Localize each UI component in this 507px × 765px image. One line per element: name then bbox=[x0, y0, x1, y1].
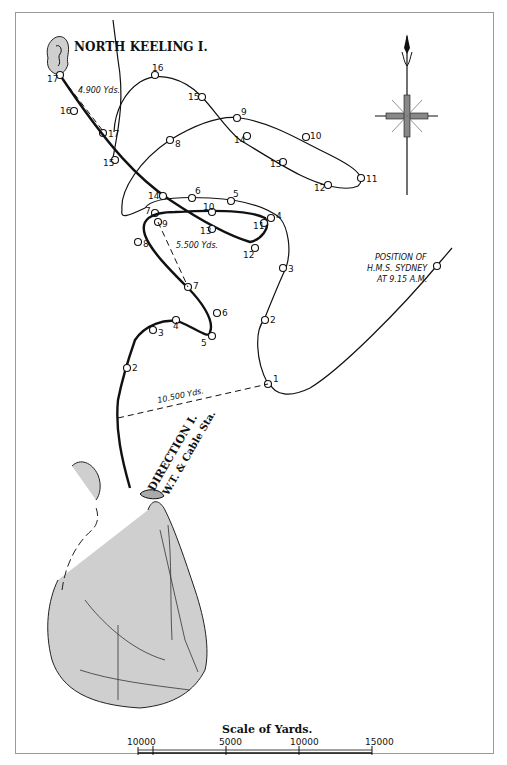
svg-text:13: 13 bbox=[200, 226, 211, 236]
sydney-position-label-3: AT 9.15 A.M. bbox=[376, 275, 427, 284]
svg-text:15: 15 bbox=[188, 92, 199, 102]
north-keeling-island bbox=[47, 37, 68, 75]
svg-text:14: 14 bbox=[234, 135, 246, 145]
sydney-start-marker bbox=[434, 263, 441, 270]
sydney-position-label: POSITION OF bbox=[375, 253, 427, 262]
distance-label-north: 4.900 Yds. bbox=[78, 86, 120, 95]
svg-text:11: 11 bbox=[253, 221, 264, 231]
distance-label-middle: 5.500 Yds. bbox=[176, 241, 218, 250]
svg-text:5: 5 bbox=[201, 338, 207, 348]
compass-rose-icon bbox=[375, 34, 438, 195]
svg-text:9: 9 bbox=[162, 219, 168, 229]
svg-text:1: 1 bbox=[273, 374, 279, 384]
scale-bar bbox=[138, 746, 372, 755]
direction-island-atoll bbox=[48, 462, 207, 708]
scale-title: Scale of Yards. bbox=[222, 723, 312, 736]
svg-text:17: 17 bbox=[47, 74, 58, 84]
svg-text:7: 7 bbox=[193, 281, 199, 291]
battle-map: NORTH KEELING I. POSITION OF H.M.S. SYDN… bbox=[0, 0, 507, 765]
scale-tick-1000: 1000 bbox=[127, 737, 150, 747]
svg-text:13: 13 bbox=[270, 159, 281, 169]
svg-text:6: 6 bbox=[222, 308, 228, 318]
scale-tick-15000: 15000 bbox=[365, 737, 394, 747]
svg-text:3: 3 bbox=[288, 264, 294, 274]
svg-text:5: 5 bbox=[233, 189, 239, 199]
svg-text:14: 14 bbox=[148, 191, 160, 201]
sydney-position-label-2: H.M.S. SYDNEY bbox=[367, 264, 428, 273]
svg-text:6: 6 bbox=[195, 186, 201, 196]
svg-text:8: 8 bbox=[143, 239, 149, 249]
svg-text:2: 2 bbox=[270, 315, 276, 325]
thin-track-points: 1 2 3 4 5 6 7 8 9 10 11 12 13 14 15 16 1… bbox=[100, 63, 378, 388]
svg-text:10: 10 bbox=[310, 131, 322, 141]
svg-text:12: 12 bbox=[314, 183, 325, 193]
svg-text:11: 11 bbox=[366, 174, 377, 184]
svg-text:12: 12 bbox=[243, 250, 254, 260]
svg-text:4: 4 bbox=[276, 211, 282, 221]
svg-text:9: 9 bbox=[241, 107, 247, 117]
svg-text:2: 2 bbox=[132, 363, 138, 373]
svg-text:17: 17 bbox=[108, 129, 119, 139]
svg-text:10: 10 bbox=[203, 202, 215, 212]
distance-label-south: 10.500 Yds. bbox=[157, 386, 205, 405]
scale-tick-5000: 5000 bbox=[219, 737, 242, 747]
svg-text:3: 3 bbox=[158, 328, 164, 338]
sydney-track bbox=[114, 77, 361, 384]
scale-tick-0: 0 bbox=[150, 737, 156, 747]
svg-text:15: 15 bbox=[103, 158, 114, 168]
svg-text:4: 4 bbox=[173, 321, 179, 331]
scale-tick-10000: 10000 bbox=[290, 737, 319, 747]
svg-text:7: 7 bbox=[145, 206, 151, 216]
svg-text:16: 16 bbox=[152, 63, 164, 73]
svg-text:16: 16 bbox=[60, 106, 72, 116]
svg-text:8: 8 bbox=[175, 139, 181, 149]
north-keeling-label: NORTH KEELING I. bbox=[74, 40, 208, 54]
distance-line-middle bbox=[158, 222, 188, 287]
